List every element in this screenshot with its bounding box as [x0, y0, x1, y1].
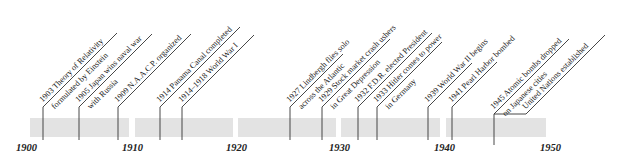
- decade-label-1940: 1940: [434, 142, 455, 153]
- decade-label-1930: 1930: [329, 142, 350, 153]
- decade-label-1900: 1900: [16, 142, 37, 153]
- decade-label-1910: 1910: [122, 142, 143, 153]
- decade-label-1920: 1920: [226, 142, 247, 153]
- decade-label-1950: 1950: [540, 142, 561, 153]
